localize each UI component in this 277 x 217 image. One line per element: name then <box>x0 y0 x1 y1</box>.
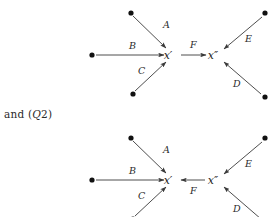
edge-label-d: D <box>232 78 241 89</box>
connector-suffix: 2) <box>41 108 52 120</box>
diagram-upper: x′ x″ A B C F E D <box>89 10 267 99</box>
edge-label-b-2: B <box>128 165 136 176</box>
edge-label-f-2: F <box>189 185 197 196</box>
node-label-x-double-prime: x″ <box>208 49 219 62</box>
node-dot-top-left-2 <box>128 135 133 140</box>
edge-d <box>224 62 261 94</box>
edge-label-e-2: E <box>244 158 252 169</box>
edge-a2 <box>133 141 166 173</box>
node-dot-top-right <box>262 10 267 15</box>
diagram-canvas: x′ x″ A B C F E D x′ x″ A B C <box>0 0 277 217</box>
edge-e <box>224 17 262 49</box>
connector-text: and (Q2) <box>4 108 52 120</box>
edge-label-d-2: D <box>232 203 241 214</box>
node-label-x-double-prime-2: x″ <box>208 174 219 187</box>
node-dot-bottom-right <box>262 94 267 99</box>
node-dot-mid-left <box>89 52 94 57</box>
edge-label-b: B <box>128 40 136 51</box>
node-dot-bottom-left-2 <box>130 216 135 217</box>
edge-d2 <box>224 187 261 217</box>
node-dot-bottom-left <box>130 91 135 96</box>
connector-prefix: and ( <box>4 108 32 120</box>
edge-label-c-2: C <box>138 190 146 201</box>
edge-label-e: E <box>244 33 252 44</box>
node-dot-top-right-2 <box>262 135 267 140</box>
node-dot-mid-left-2 <box>89 177 94 182</box>
edge-a <box>133 16 166 48</box>
node-label-x-prime: x′ <box>164 49 173 62</box>
edge-label-a-2: A <box>162 144 170 155</box>
diagram-lower: x′ x″ A B C F E D <box>89 135 267 217</box>
node-dot-top-left <box>128 10 133 15</box>
edge-e2 <box>224 142 262 174</box>
connector-symbol: Q <box>32 108 41 120</box>
edge-label-c: C <box>138 65 146 76</box>
node-label-x-prime-2: x′ <box>164 174 173 187</box>
edge-label-a: A <box>162 19 170 30</box>
edge-label-f: F <box>189 39 197 50</box>
